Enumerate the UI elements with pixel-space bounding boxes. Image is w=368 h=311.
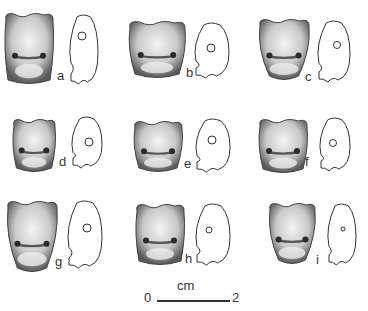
profile-outline-g	[68, 201, 102, 268]
specimen-drawing-i	[269, 204, 315, 264]
profile-outline-h	[196, 204, 230, 265]
perforation-hole-icon	[330, 140, 337, 147]
scale-bar: 0 cm 2	[144, 283, 244, 307]
perforation-hole-icon	[85, 138, 93, 146]
perforation-hole-icon	[341, 227, 345, 231]
scale-end-label: 2	[232, 290, 239, 305]
profile-outline-d	[72, 117, 102, 168]
specimen-drawing-g	[7, 202, 57, 272]
specimen-drawing-a	[5, 14, 54, 84]
profile-outline-i	[328, 204, 356, 265]
specimen-drawing-b	[129, 22, 185, 78]
profile-outline-c	[318, 21, 350, 82]
specimen-drawing-d	[13, 120, 56, 172]
specimen-label-b: b	[186, 66, 193, 79]
perforation-hole-icon	[78, 32, 86, 40]
specimen-label-h: h	[185, 252, 192, 265]
specimen-drawing-h	[136, 205, 185, 265]
specimen-drawing-f	[259, 120, 308, 173]
scale-start-label: 0	[144, 290, 151, 305]
specimen-label-f: f	[305, 155, 309, 168]
scale-bar-line	[157, 300, 230, 302]
specimen-label-g: g	[55, 255, 62, 268]
specimen-label-e: e	[184, 157, 191, 170]
scale-unit-label: cm	[177, 278, 194, 293]
profile-outline-e	[196, 119, 230, 172]
profile-outline-b	[195, 23, 229, 78]
perforation-hole-icon	[83, 224, 91, 232]
specimen-label-c: c	[305, 70, 312, 83]
specimen-label-a: a	[57, 69, 64, 82]
specimen-label-d: d	[59, 155, 66, 168]
profile-outline-f	[320, 118, 350, 171]
perforation-hole-icon	[208, 136, 216, 144]
perforation-hole-icon	[207, 44, 215, 52]
perforation-hole-icon	[334, 42, 341, 49]
specimen-label-i: i	[316, 253, 319, 266]
perforation-hole-icon	[206, 227, 212, 233]
specimen-drawing-c	[259, 20, 309, 80]
profile-outline-a	[70, 15, 98, 84]
specimen-drawing-e	[134, 122, 182, 172]
